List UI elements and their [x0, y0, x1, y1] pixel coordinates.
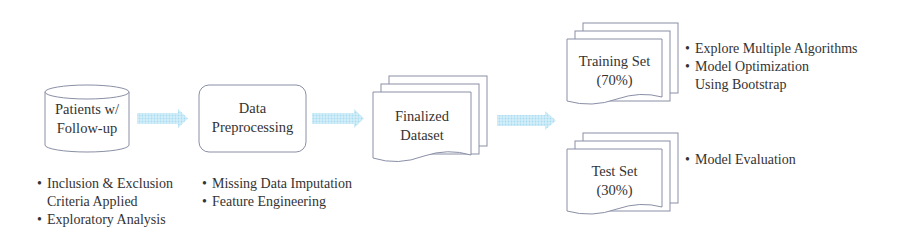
training-node-label: Training Set (70%) [567, 52, 662, 90]
training-notes: Explore Multiple Algorithms Model Optimi… [685, 40, 858, 94]
arrow-icon [137, 109, 188, 128]
note-item: Inclusion & ExclusionCriteria Applied [37, 175, 173, 211]
finalized-label-line1: Finalized [373, 107, 471, 126]
training-label-line1: Training Set [567, 52, 662, 71]
finalized-node-label: Finalized Dataset [373, 107, 471, 145]
preprocessing-label-line1: Data [199, 99, 306, 118]
note-item: Feature Engineering [202, 193, 352, 211]
test-label-line2: (30%) [567, 181, 662, 200]
training-label-line2: (70%) [567, 71, 662, 90]
arrow-icon [497, 111, 556, 130]
arrow-icon [312, 109, 364, 128]
preprocessing-label-line2: Preprocessing [199, 118, 306, 137]
test-node-label: Test Set (30%) [567, 162, 662, 200]
note-item: Model Evaluation [685, 151, 796, 169]
preprocessing-notes: Missing Data Imputation Feature Engineer… [202, 175, 352, 211]
test-label-line1: Test Set [567, 162, 662, 181]
patients-label-line2: Follow-up [45, 119, 129, 138]
preprocessing-node-label: Data Preprocessing [199, 99, 306, 137]
note-item: Missing Data Imputation [202, 175, 352, 193]
note-item: Explore Multiple Algorithms [685, 40, 858, 58]
patients-node-label: Patients w/ Follow-up [45, 100, 129, 138]
patients-label-line1: Patients w/ [45, 100, 129, 119]
test-notes: Model Evaluation [685, 151, 796, 169]
note-item: Model OptimizationUsing Bootstrap [685, 58, 858, 94]
note-item: Exploratory Analysis [37, 211, 173, 229]
patients-notes: Inclusion & ExclusionCriteria Applied Ex… [37, 175, 173, 229]
finalized-label-line2: Dataset [373, 126, 471, 145]
